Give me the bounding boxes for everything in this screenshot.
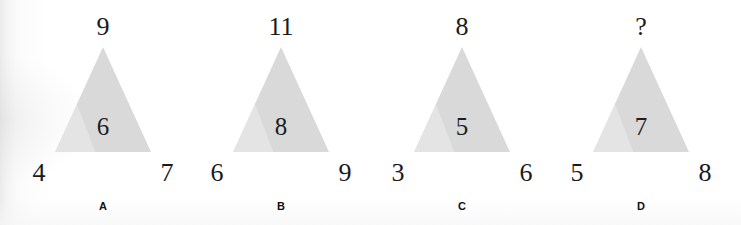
figure-d-center-number: 7 (611, 114, 671, 139)
figure-a-apex-number: 9 (58, 14, 148, 40)
figure-a: 9 6 4 7 A (13, 0, 193, 225)
figure-c-center-number: 5 (432, 114, 492, 139)
puzzle-sheet: 9 6 4 7 A 11 8 6 9 B 8 5 3 6 C ? 7 5 8 D (0, 0, 741, 225)
figure-c-bottom-right-number: 6 (506, 160, 546, 186)
figure-b-bottom-left-number: 6 (197, 160, 237, 186)
figure-c-label: C (417, 200, 507, 212)
figure-b-bottom-right-number: 9 (325, 160, 365, 186)
figure-a-bottom-left-number: 4 (19, 160, 59, 186)
figure-c-apex-number: 8 (417, 14, 507, 40)
figure-b: 11 8 6 9 B (191, 0, 371, 225)
figure-a-label: A (58, 200, 148, 212)
figure-b-label: B (236, 200, 326, 212)
figure-d-bottom-left-number: 5 (557, 160, 597, 186)
figure-d-label: D (596, 200, 686, 212)
figure-c: 8 5 3 6 C (372, 0, 552, 225)
figure-c-bottom-left-number: 3 (378, 160, 418, 186)
figure-a-bottom-right-number: 7 (147, 160, 187, 186)
figure-b-apex-number: 11 (236, 14, 326, 40)
figure-a-center-number: 6 (73, 114, 133, 139)
figure-d-apex-number: ? (596, 14, 686, 40)
figure-b-center-number: 8 (251, 114, 311, 139)
figure-d: ? 7 5 8 D (551, 0, 731, 225)
figure-d-bottom-right-number: 8 (685, 160, 725, 186)
